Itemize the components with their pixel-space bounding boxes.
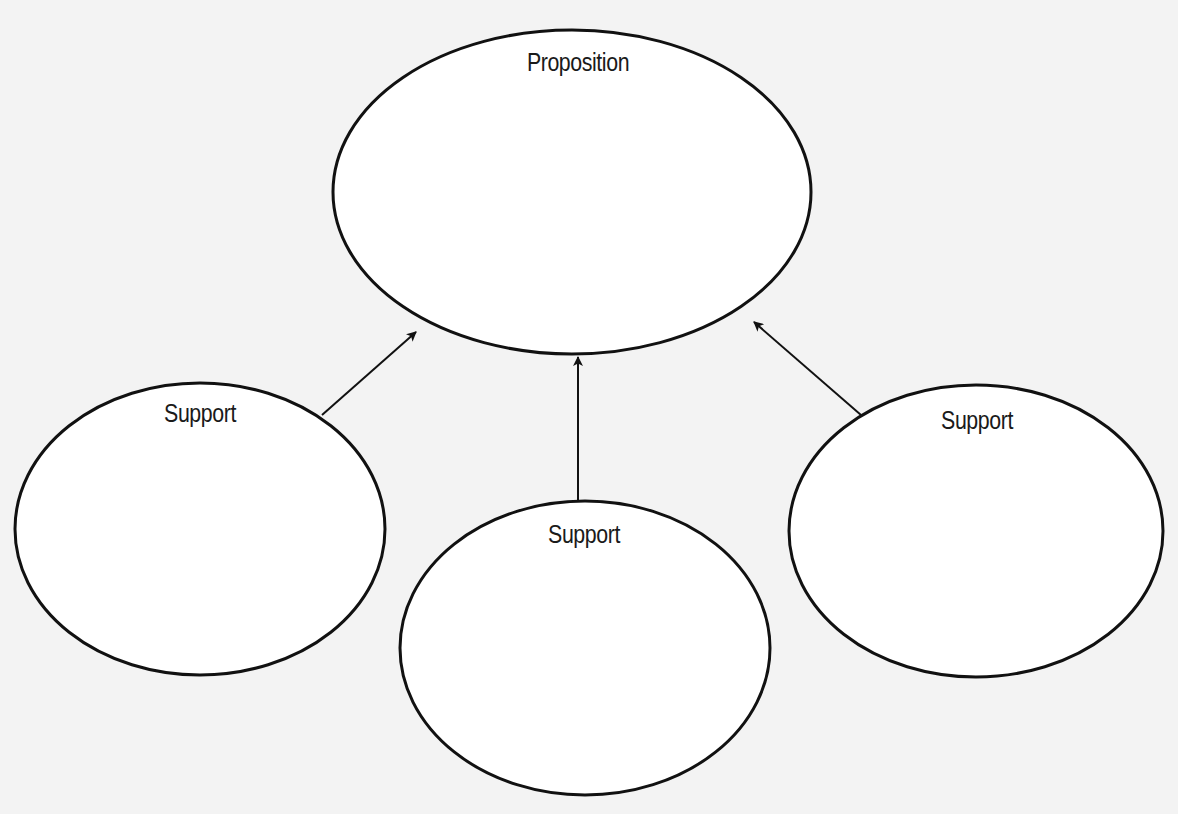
support-left-label: Support (156, 398, 244, 429)
support-middle-label: Support (540, 519, 628, 550)
node-label-text: Support (164, 398, 236, 429)
support-left-to-proposition-arrow (322, 332, 416, 415)
proposition-ellipse (333, 30, 811, 354)
support-right-label: Support (933, 405, 1021, 436)
node-label-text: Proposition (527, 47, 629, 78)
node-label-text: Support (941, 405, 1013, 436)
node-label-text: Support (548, 519, 620, 550)
proposition-label: Proposition (516, 47, 641, 78)
support-right-to-proposition-arrow (754, 322, 861, 415)
